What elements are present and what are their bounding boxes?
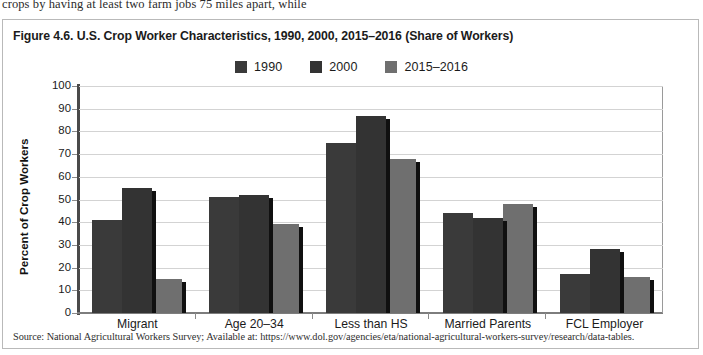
bar bbox=[590, 249, 620, 313]
y-axis-tick-mark bbox=[72, 154, 77, 155]
y-axis-tick-mark bbox=[72, 313, 77, 314]
y-axis-tick-label: 30 bbox=[37, 239, 71, 250]
y-axis-tick-label: 10 bbox=[37, 284, 71, 295]
bar bbox=[92, 220, 122, 313]
y-axis-tick-mark bbox=[72, 131, 77, 132]
bar-groups bbox=[79, 86, 663, 313]
y-axis-tick-labels: 0102030405060708090100 bbox=[37, 20, 71, 350]
bar-group bbox=[313, 86, 430, 313]
chart-plot-area: Percent of Crop Workers 0102030405060708… bbox=[3, 20, 700, 350]
bar bbox=[443, 213, 473, 313]
bar bbox=[269, 224, 299, 313]
bar bbox=[152, 279, 182, 313]
bar bbox=[503, 204, 533, 313]
bar-group bbox=[429, 86, 546, 313]
bar bbox=[473, 218, 503, 313]
y-axis-tick-label: 70 bbox=[37, 148, 71, 159]
y-axis-tick-label: 0 bbox=[37, 307, 71, 318]
bar-group bbox=[196, 86, 313, 313]
y-axis-tick-label: 20 bbox=[37, 262, 71, 273]
x-axis-tick-label: Age 20–34 bbox=[196, 317, 313, 331]
y-axis-tick-mark bbox=[72, 268, 77, 269]
bar bbox=[209, 197, 239, 313]
bar bbox=[239, 195, 269, 313]
bar-group bbox=[546, 86, 663, 313]
y-axis-title: Percent of Crop Workers bbox=[17, 109, 30, 125]
bar bbox=[122, 188, 152, 313]
figure-container: Figure 4.6. U.S. Crop Worker Characteris… bbox=[2, 19, 699, 349]
x-axis-tick-label: Less than HS bbox=[313, 317, 430, 331]
x-axis-tick-labels: MigrantAge 20–34Less than HSMarried Pare… bbox=[79, 317, 663, 331]
bar bbox=[386, 159, 416, 313]
surrounding-body-text: crops by having at least two farm jobs 7… bbox=[2, 0, 522, 12]
y-axis-tick-mark bbox=[72, 177, 77, 178]
y-axis-tick-mark bbox=[72, 109, 77, 110]
y-axis-tick-mark bbox=[72, 245, 77, 246]
y-axis-tick-label: 100 bbox=[37, 80, 71, 91]
y-axis-tick-label: 60 bbox=[37, 171, 71, 182]
y-axis-tick-mark bbox=[72, 200, 77, 201]
y-axis-tick-mark bbox=[72, 290, 77, 291]
x-axis-tick-label: FCL Employer bbox=[546, 317, 663, 331]
bar bbox=[356, 116, 386, 313]
bar bbox=[560, 274, 590, 313]
bar-group bbox=[79, 86, 196, 313]
x-axis-tick-label: Migrant bbox=[79, 317, 196, 331]
bar bbox=[326, 143, 356, 313]
y-axis-tick-label: 90 bbox=[37, 103, 71, 114]
y-axis-tick-mark bbox=[72, 222, 77, 223]
y-axis-tick-mark bbox=[72, 86, 77, 87]
x-axis-tick-label: Married Parents bbox=[429, 317, 546, 331]
figure-source-note: Source: National Agricultural Workers Su… bbox=[13, 331, 634, 342]
bar bbox=[620, 277, 650, 313]
y-axis-tick-label: 50 bbox=[37, 194, 71, 205]
y-axis-tick-label: 40 bbox=[37, 216, 71, 227]
y-axis-tick-label: 80 bbox=[37, 125, 71, 136]
